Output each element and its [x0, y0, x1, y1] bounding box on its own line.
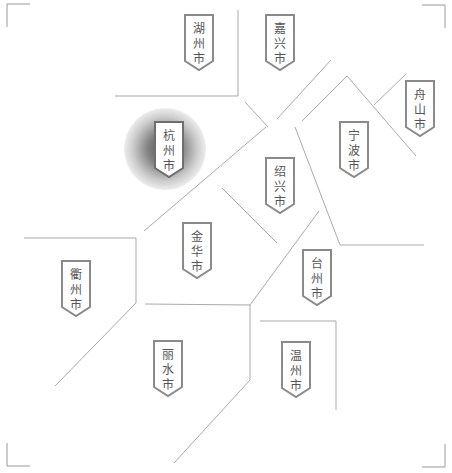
city-tag-quzhou[interactable]: 衢州市 [61, 260, 91, 318]
corner-bracket-top-left [7, 4, 30, 27]
city-tag-huzhou[interactable]: 湖州市 [184, 14, 214, 72]
boundary-lishui-wenzhou [174, 305, 250, 463]
city-name-label: 舟山市 [405, 88, 435, 133]
corner-bracket-bottom-right [422, 444, 445, 467]
city-tag-jinhua[interactable]: 金华市 [182, 222, 212, 280]
city-tag-lishui[interactable]: 丽水市 [153, 340, 183, 398]
city-name-label: 绍兴市 [265, 165, 295, 210]
city-name-label: 温州市 [281, 349, 311, 394]
corner-bracket-top-right [422, 5, 445, 28]
city-name-label: 宁波市 [339, 129, 369, 174]
region-boundaries [0, 0, 452, 473]
city-name-label: 金华市 [182, 230, 212, 275]
city-name-label: 杭州市 [154, 129, 184, 174]
city-tag-wenzhou[interactable]: 温州市 [281, 341, 311, 399]
boundary-huzhou-jiaxing [115, 10, 238, 96]
city-name-label: 丽水市 [153, 348, 183, 393]
zhejiang-city-map: 湖州市嘉兴市舟山市杭州市宁波市绍兴市金华市台州市衢州市丽水市温州市 [0, 0, 452, 473]
city-name-label: 衢州市 [61, 268, 91, 313]
city-tag-shaoxing[interactable]: 绍兴市 [265, 157, 295, 215]
city-name-label: 湖州市 [184, 22, 214, 67]
city-name-label: 嘉兴市 [265, 22, 295, 67]
city-tag-jiaxing[interactable]: 嘉兴市 [265, 14, 295, 72]
city-tag-zhoushan[interactable]: 舟山市 [405, 80, 435, 138]
city-tag-hangzhou[interactable]: 杭州市 [154, 121, 184, 179]
corner-bracket-bottom-left [7, 443, 30, 466]
city-name-label: 台州市 [302, 257, 332, 302]
boundary-jinhua-taizhou [145, 211, 319, 305]
city-tag-ningbo[interactable]: 宁波市 [339, 121, 369, 179]
city-tag-taizhou[interactable]: 台州市 [302, 249, 332, 307]
